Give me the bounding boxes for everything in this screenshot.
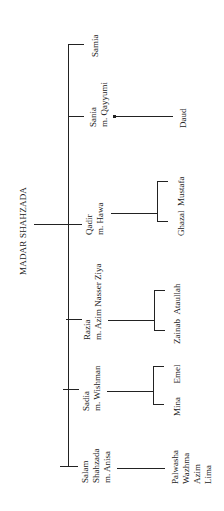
lima-name: Lima [203,450,214,484]
node-zainab-ataullah: Zainab Ataullah [172,284,183,345]
zainab-ataullah-line: Zainab Ataullah [172,284,183,345]
mina-name: Mina [172,397,182,416]
sania-spouse: m. Qayyumi [99,82,110,127]
salam-spouse: m. Anisa [102,449,113,483]
razia-spouse: m. Azim Nasser Ziya [93,264,104,340]
tick-sania [68,116,84,117]
qadir-descent [111,213,157,214]
razia-children-bar [154,290,155,330]
mina-emel-line: Mina Emel [172,365,183,417]
node-daud: Daud [178,109,189,129]
tick-sadia [63,389,79,390]
sadia-name: Sadia [81,366,92,411]
sibling-bar [68,44,69,467]
sania-name: Sania [88,82,99,127]
root-title: MADAR SHAHZADA [18,187,29,275]
node-samia: Samia [90,35,101,58]
razia-name: Razia [82,264,93,340]
razia-tick-zainab [154,330,165,331]
node-qadir: Qadir m. Hawa [84,203,106,236]
razia-tick-ataullah [154,290,165,291]
mustafa-name: Mustafa [176,177,186,207]
node-sania: Sania m. Qayyumi [88,82,110,127]
node-salam: Salam Shahzada m. Anisa [80,449,113,483]
qadir-children-bar [157,181,158,221]
sadia-spouse: m. Wishman [92,366,103,411]
sadia-descent [107,391,153,392]
samia-name: Samia [90,35,101,58]
daud-name: Daud [178,109,189,129]
node-ghazal-mustafa: Ghazal Mustafa [176,177,187,236]
palwasha-name: Palwasha [170,450,181,484]
zainab-name: Zainab [172,319,182,344]
wazhma-name: Wazhma [181,450,192,484]
sadia-tick-mina [153,404,164,405]
node-salam-offspring: Palwasha Wazhma Azim Lima [170,450,214,484]
emel-name: Emel [172,365,182,384]
tick-qadir [66,224,82,225]
node-sadia: Sadia m. Wishman [81,366,103,411]
node-razia: Razia m. Azim Nasser Ziya [82,264,104,340]
salam-surname: Shahzada [91,449,102,483]
ataullah-name: Ataullah [172,284,182,315]
azim-name: Azim [192,450,203,484]
tick-samia [68,44,84,45]
title-text: MADAR SHAHZADA [18,187,29,275]
salam-name: Salam [80,449,91,483]
qadir-name: Qadir [84,203,95,236]
razia-descent [108,320,154,321]
ghazal-mustafa-line: Ghazal Mustafa [176,177,187,236]
sania-dot [113,115,116,118]
qadir-spouse: m. Hawa [95,203,106,236]
qadir-tick-mustafa [157,181,168,182]
tick-razia [66,319,82,320]
ghazal-name: Ghazal [176,211,186,236]
sadia-tick-emel [153,366,164,367]
node-mina-emel: Mina Emel [172,365,183,417]
tick-salam [60,466,78,467]
salam-descent [117,468,165,469]
qadir-tick-ghazal [157,221,168,222]
sadia-children-bar [153,366,154,404]
sania-descent [114,116,173,117]
